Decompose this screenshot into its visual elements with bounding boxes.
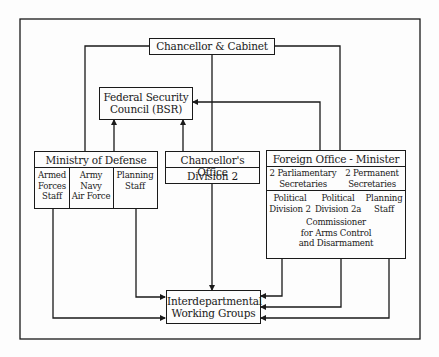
fo-political-division-2: Political Division 2 (267, 193, 313, 214)
bsr-line1: Federal Security (100, 91, 192, 103)
mod-army-navy-airforce: Army Navy Air Force (69, 170, 113, 202)
fo-arms-control-commissioner: Commissioner for Arms Control and Disarm… (267, 217, 405, 249)
chancellor-cabinet-box: Chancellor & Cabinet (149, 38, 275, 55)
chancellor-cabinet-label: Chancellor & Cabinet (150, 39, 274, 52)
bsr-box: Federal Security Council (BSR) (99, 87, 193, 120)
chancellors-office-division: Division 2 (166, 170, 259, 182)
fo-permanent-secretaries: 2 Permanent Secretaries (339, 168, 405, 189)
foreign-office-box: Foreign Office - Minister 2 Parliamentar… (266, 150, 406, 259)
fo-political-division-2a: Political Division 2a (313, 193, 363, 214)
iwg-line2: Working Groups (167, 307, 260, 319)
mod-planning-staff: Planning Staff (113, 170, 157, 191)
fo-parliamentary-secretaries: 2 Parliamentary Secretaries (267, 168, 339, 189)
iwg-box: Interdepartmental Working Groups (166, 290, 261, 324)
bsr-line2: Council (BSR) (100, 103, 192, 115)
mod-title: Ministry of Defense (35, 154, 157, 166)
fo-planning-staff: Planning Staff (363, 193, 405, 214)
ministry-of-defense-box: Ministry of Defense Armed Forces Staff A… (34, 151, 158, 209)
mod-armed-forces-staff: Armed Forces Staff (35, 170, 69, 202)
iwg-line1: Interdepartmental (167, 295, 260, 307)
foreign-office-title: Foreign Office - Minister (267, 153, 405, 165)
chancellors-office-box: Chancellor's Office Division 2 (165, 151, 260, 184)
